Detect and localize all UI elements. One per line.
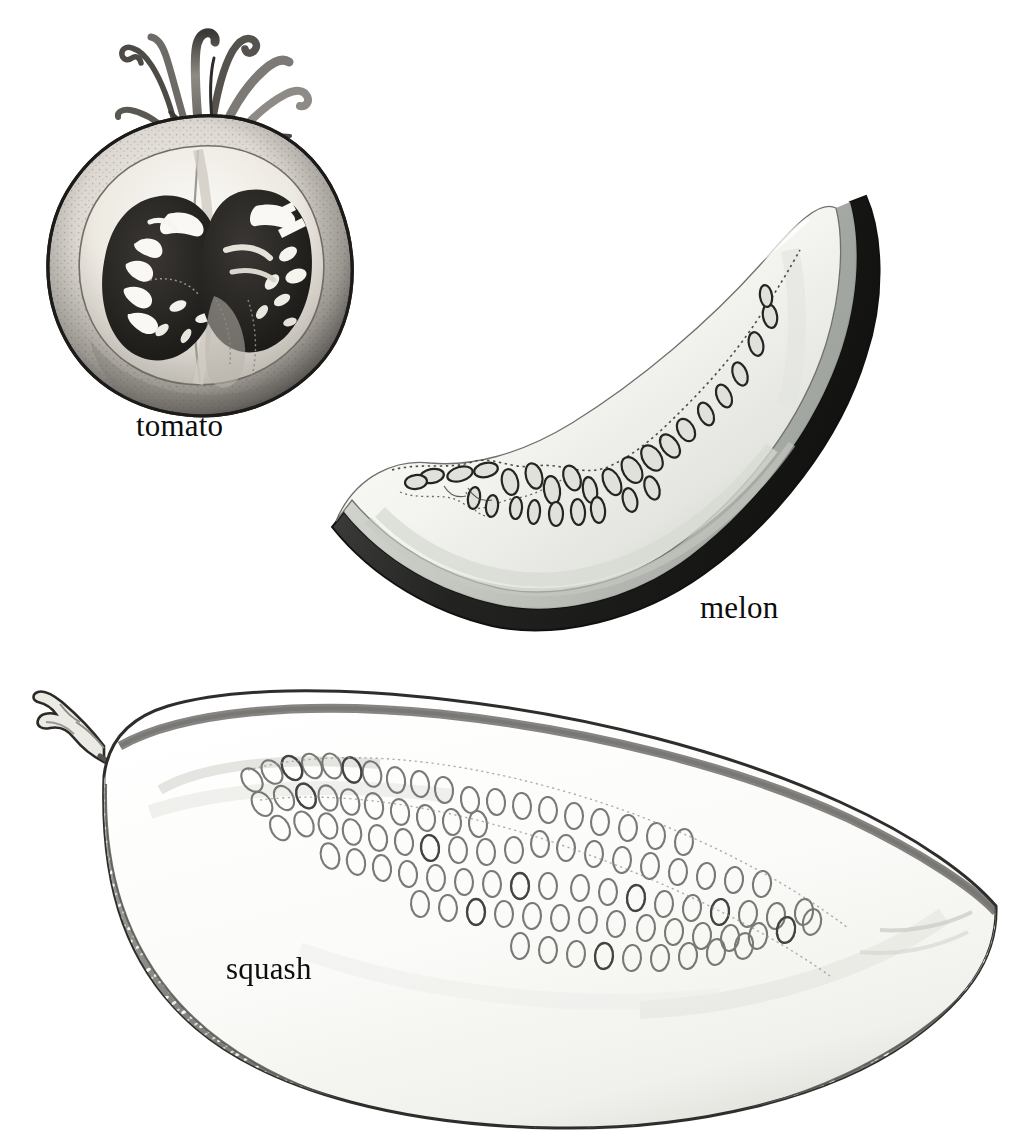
specimen-label-tomato: tomato <box>136 410 223 441</box>
melon-wedge <box>332 196 880 630</box>
tomato-calyx <box>118 33 308 158</box>
tomato-body <box>30 100 370 430</box>
specimen-label-squash: squash <box>226 953 312 984</box>
tomato-figure <box>0 0 1026 1133</box>
melon-seeds <box>404 284 779 526</box>
squash-stem <box>34 691 135 782</box>
illustration-plate: tomato melon squash <box>0 0 1026 1133</box>
specimen-label-melon: melon <box>700 592 779 623</box>
melon-figure <box>0 0 1026 1133</box>
squash-figure <box>0 0 1026 1133</box>
squash-seed-mass <box>237 750 824 972</box>
squash-body <box>34 691 997 1133</box>
